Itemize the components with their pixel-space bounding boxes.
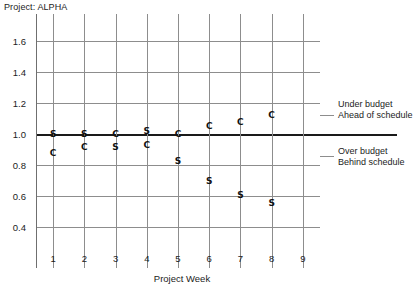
data-point-c-week-3: C <box>112 130 119 139</box>
y-axis-tick-label: 1.0 <box>4 129 26 140</box>
x-axis-tick-label: 1 <box>46 253 60 264</box>
data-point-s-week-5: S <box>175 156 181 165</box>
x-axis-tick-label: 6 <box>202 253 216 264</box>
data-point-s-week-6: S <box>206 176 212 185</box>
data-point-s-week-7: S <box>237 190 243 199</box>
annotation-over-budget-line-1: Over budget <box>338 146 405 157</box>
data-point-c-week-7: C <box>237 117 244 126</box>
annotation-under-budget-line-1: Under budget <box>338 99 413 110</box>
y-axis-tick-label: 1.6 <box>4 35 26 46</box>
annotation-over-budget-line-2: Behind schedule <box>338 157 405 168</box>
x-axis-tick-label: 7 <box>233 253 247 264</box>
x-axis-tick-label: 8 <box>265 253 279 264</box>
data-point-s-week-1: S <box>50 130 56 139</box>
y-axis-tick-label: 0.8 <box>4 160 26 171</box>
x-axis-tick-label: 3 <box>109 253 123 264</box>
x-axis-tick-label: 9 <box>296 253 310 264</box>
data-point-s-week-3: S <box>112 142 118 151</box>
annotation-under-budget: Under budgetAhead of schedule <box>338 99 413 121</box>
y-axis-tick-label: 0.4 <box>4 222 26 233</box>
data-point-c-week-4: C <box>143 140 150 149</box>
data-point-c-week-8: C <box>268 111 275 120</box>
data-point-c-week-2: C <box>81 142 88 151</box>
x-axis-tick-label: 2 <box>77 253 91 264</box>
data-point-c-week-6: C <box>206 122 213 131</box>
data-point-s-week-4: S <box>144 126 150 135</box>
x-axis-title: Project Week <box>154 273 210 284</box>
y-axis-tick-label: 1.4 <box>4 66 26 77</box>
data-point-s-week-8: S <box>268 198 274 207</box>
annotation-over-budget: Over budgetBehind schedule <box>338 146 405 168</box>
y-axis-tick-label: 0.6 <box>4 191 26 202</box>
data-point-c-week-1: C <box>50 148 57 157</box>
data-point-c-week-5: C <box>175 130 182 139</box>
y-axis-tick-label: 1.2 <box>4 97 26 108</box>
annotation-under-budget-line-2: Ahead of schedule <box>338 110 413 121</box>
data-point-s-week-2: S <box>81 130 87 139</box>
x-axis-tick-label: 5 <box>171 253 185 264</box>
x-axis-tick-label: 4 <box>140 253 154 264</box>
